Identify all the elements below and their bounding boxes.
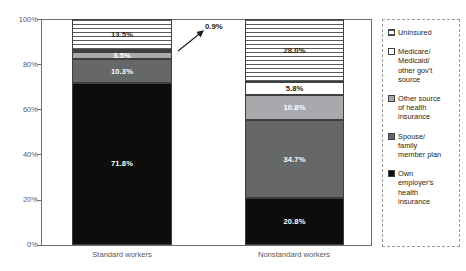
legend-swatch-medicare-icon [388,48,395,55]
y-tick-label-40: 40% [2,150,38,159]
segment-nonstandard-uninsured[interactable]: 28.0% [245,19,344,82]
legend-item-own-employer[interactable]: Own employer's health insurance [388,169,456,206]
plot-area: 13.5% 3.5% 10.3% 71.8% 28.0% 5.8% [41,19,372,245]
segment-value-label: 28.0% [283,46,305,55]
segment-value-label: 34.7% [283,155,305,164]
y-axis: 100% 80% 60% 40% 20% 0% [0,0,38,271]
legend-label: Own employer's health insurance [398,169,434,206]
callout-label-medicare-standard: 0.9% [205,22,223,31]
segment-value-label: 10.3% [111,67,133,76]
legend-item-other-source[interactable]: Other source of health insurance [388,94,456,122]
legend-swatch-uninsured-icon [388,29,395,36]
segment-standard-own-employer[interactable]: 71.8% [72,83,172,245]
segment-value-label: 10.8% [283,103,305,112]
stacked-bar-chart: 100% 80% 60% 40% 20% 0% 13.5% 3.5% [0,0,466,271]
segment-nonstandard-other-source[interactable]: 10.8% [245,95,344,119]
segment-value-label: 3.5% [113,52,131,60]
segment-value-label: 20.8% [283,217,305,226]
segment-nonstandard-spouse[interactable]: 34.7% [245,120,344,198]
segment-value-label: 5.8% [286,84,304,93]
segment-standard-other-source[interactable]: 3.5% [72,52,172,60]
legend-swatch-other-source-icon [388,95,395,102]
legend-swatch-own-employer-icon [388,170,395,177]
segment-nonstandard-own-employer[interactable]: 20.8% [245,198,344,245]
legend-swatch-spouse-icon [388,133,395,140]
bar-nonstandard-workers[interactable]: 28.0% 5.8% 10.8% 34.7% 20.8% [245,19,344,245]
axis-line-bottom [41,245,372,246]
y-tick-label-20: 20% [2,195,38,204]
segment-value-label: 13.5% [111,30,133,39]
x-axis-label-standard-workers: Standard workers [32,250,212,259]
y-tick-label-100: 100% [2,15,38,24]
legend-label: Other source of health insurance [398,94,441,122]
y-tick-label-0: 0% [2,240,38,249]
segment-value-label: 71.8% [111,159,133,168]
legend-label: Medicare/ Medicaid/ other gov't source [398,47,432,84]
bar-standard-workers[interactable]: 13.5% 3.5% 10.3% 71.8% [72,19,172,245]
segment-standard-uninsured[interactable]: 13.5% [72,19,172,50]
y-tick-label-60: 60% [2,105,38,114]
y-tick-label-80: 80% [2,60,38,69]
segment-standard-spouse[interactable]: 10.3% [72,59,172,82]
segment-nonstandard-medicare[interactable]: 5.8% [245,82,344,95]
legend-item-spouse[interactable]: Spouse/ family member plan [388,132,456,160]
legend-label: Spouse/ family member plan [398,132,441,160]
x-axis-label-nonstandard-workers: Nonstandard workers [204,250,384,259]
legend-item-uninsured[interactable]: Uninsured [388,28,456,37]
legend-label: Uninsured [398,28,432,37]
legend: Uninsured Medicare/ Medicaid/ other gov'… [382,19,460,247]
legend-item-medicare[interactable]: Medicare/ Medicaid/ other gov't source [388,47,456,84]
